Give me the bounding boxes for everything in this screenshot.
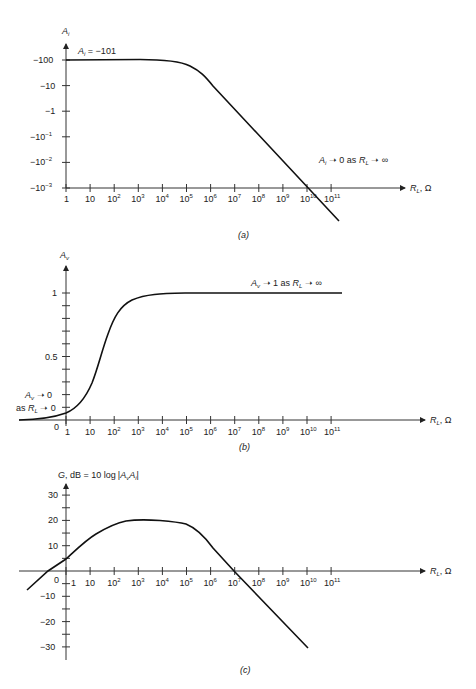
x-tick-label: 107: [228, 577, 242, 588]
plot-a-y-ticks: −100−10−1−10−1−10−2−10−3: [30, 55, 70, 193]
plot-b-xlabel: RL, Ω: [430, 415, 452, 426]
x-tick-label: 106: [204, 193, 218, 204]
x-tick-label: 102: [107, 193, 121, 204]
x-tick-label: 102: [107, 426, 121, 437]
x-tick-label: 1011: [324, 426, 341, 437]
plot-a-annotation-limit: Ai ➝ 0 as RL ➝ ∞: [318, 155, 388, 166]
x-tick-label: 109: [276, 426, 290, 437]
x-tick-label: 107: [228, 426, 242, 437]
plot-c-x-ticks: 11010210310410510610710810910101011: [66, 567, 341, 588]
y-tick-label: 30: [48, 490, 58, 500]
x-tick-label: 104: [155, 426, 169, 437]
plot-c-xlabel: RL, Ω: [430, 566, 452, 577]
plot-b-ytick-0: 0: [54, 422, 59, 432]
x-tick-label: 109: [276, 577, 290, 588]
plot-b-annotation-limit-zero-2: as RL ➝ 0: [16, 403, 56, 414]
plot-c-caption: (c): [240, 665, 251, 675]
x-tick-label: 105: [180, 577, 194, 588]
x-tick-label: 106: [204, 426, 218, 437]
x-tick-label: 104: [155, 193, 169, 204]
x-tick-label: 10: [85, 578, 95, 588]
x-tick-label: 106: [204, 577, 218, 588]
x-tick-label: 102: [107, 577, 121, 588]
x-tick-label: 108: [252, 193, 266, 204]
y-tick-label: −10−2: [30, 156, 53, 167]
y-tick-label: −30: [40, 642, 55, 652]
plot-c: G, dB = 10 log|AvAi| 3020100−10−20−30 11…: [19, 470, 452, 675]
plot-a-ylabel: Ai: [61, 26, 70, 37]
plot-a-caption: (a): [238, 230, 249, 240]
y-tick-label: −10−3: [30, 182, 53, 193]
y-tick-label: −20: [40, 617, 55, 627]
x-tick-label: 10: [85, 194, 95, 204]
x-tick-label: 1: [65, 427, 70, 437]
y-tick-label: −1: [45, 106, 55, 116]
x-tick-label: 109: [276, 193, 290, 204]
plot-a: Ai −100−10−1−10−1−10−2−10−3 110102103104…: [30, 26, 432, 240]
plot-a-x-ticks: 11010210310410510610710810910101011: [64, 184, 341, 204]
x-tick-label: 1: [64, 194, 69, 204]
plot-b-annotation-limit-zero-1: Av ➝ 0: [24, 390, 52, 401]
x-tick-label: 103: [131, 577, 145, 588]
x-tick-label: 1: [71, 578, 76, 588]
x-tick-label: 1010: [300, 426, 317, 437]
x-tick-label: 108: [252, 426, 266, 437]
y-tick-label: 10: [48, 541, 58, 551]
y-tick-label: −100: [33, 55, 53, 65]
x-tick-label: 103: [131, 193, 145, 204]
y-tick-label: −10: [40, 81, 55, 91]
x-tick-label: 10: [85, 427, 95, 437]
y-tick-label: 20: [48, 515, 58, 525]
plot-b-ytick-1: 1: [52, 288, 57, 298]
plot-b-caption: (b): [239, 442, 250, 452]
plot-b-x-ticks: 11010210310410510610710810910101011: [65, 416, 341, 437]
x-tick-label: 105: [180, 426, 194, 437]
plot-a-xlabel: RL, Ω: [410, 183, 432, 194]
x-tick-label: 108: [252, 577, 266, 588]
x-tick-label: 107: [228, 193, 242, 204]
y-tick-label: −10: [40, 591, 55, 601]
x-tick-label: 1011: [324, 577, 341, 588]
plot-a-annotation-ai-101: Ai = −101: [77, 46, 116, 57]
plot-b-annotation-limit-inf: Av ➝ 1 as RL ➝ ∞: [250, 278, 322, 289]
x-tick-label: 1011: [324, 193, 341, 204]
x-tick-label: 104: [155, 577, 169, 588]
x-tick-label: 105: [180, 193, 194, 204]
chart-figure: Ai −100−10−1−10−1−10−2−10−3 110102103104…: [0, 0, 476, 689]
plot-b: Av 1 0.5 0 11010210310410510610710810910…: [16, 250, 452, 452]
plot-c-ylabel: G, dB = 10 log|AvAi|: [58, 470, 139, 481]
x-tick-label: 103: [131, 426, 145, 437]
x-tick-label: 1010: [300, 577, 317, 588]
y-tick-label: −10−1: [30, 131, 53, 142]
y-tick-label: 0: [54, 575, 59, 585]
plot-b-ylabel: Av: [59, 250, 70, 261]
plot-b-ytick-0.5: 0.5: [45, 352, 58, 362]
